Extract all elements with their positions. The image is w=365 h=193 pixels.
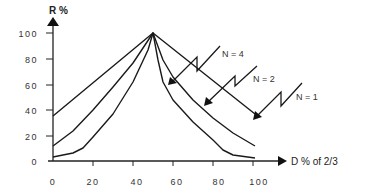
x-tick-label: 0 [50,177,57,187]
y-tick-label: 20 [25,132,38,142]
y-axis-arrow-icon [47,17,59,26]
y-axis-title: R % [49,5,68,16]
x-tick-label: 80 [212,177,225,187]
y-ticks [46,33,53,136]
x-tick-label: 60 [170,177,183,187]
leader-n4 [172,46,220,82]
y-tick-label: 0 [31,157,38,167]
y-tick-label: 40 [25,106,38,116]
legend-label-n2: N = 2 [253,74,275,84]
x-axis-title: D % of 2/3 [291,156,338,167]
legend-label-n4: N = 4 [222,49,244,59]
x-axis-arrow-icon [278,156,287,166]
x-tick-label: 40 [130,177,143,187]
y-tick-label: 60 [25,81,38,91]
y-tick-label: 100 [18,29,38,39]
x-ticks [93,161,253,166]
series-line-n4 [53,33,255,116]
legend-label-n1: N = 1 [296,92,318,102]
x-tick-label: 100 [249,177,269,187]
chart: 100 80 60 40 20 0 0 20 40 60 80 100 R % … [0,0,365,193]
y-tick-label: 80 [25,55,38,65]
y-axis [47,17,59,161]
x-tick-label: 20 [86,177,99,187]
